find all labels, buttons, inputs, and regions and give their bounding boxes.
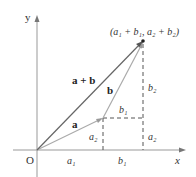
vector-addition-diagram: y x O (a₁ + b₁, a₂ + b₂) a + b b a b₁ b₂… [0,0,196,177]
endpoint-coordinate-label: (a₁ + b₁, a₂ + b₂) [110,26,180,38]
endpoint-dot [141,39,145,43]
y-axis-arrow-icon [35,15,40,22]
x-axis-label: x [174,154,180,166]
dashed-guides [103,44,143,150]
vector-b-label: b [107,84,113,96]
a1-x-label: a₁ [67,155,75,166]
vector-a-arrow-icon [96,118,103,123]
vector-sum-label: a + b [72,74,95,86]
a2-right-label: a₂ [148,131,157,142]
vector-a-label: a [72,118,78,130]
axes [13,15,186,177]
y-axis-label: y [25,11,31,23]
a2-left-label: a₂ [89,131,98,142]
b1-x-label: b₁ [118,155,126,166]
b1-mid-label: b₁ [119,104,127,115]
b2-right-label: b₂ [148,82,157,93]
origin-label: O [26,154,34,166]
x-axis-arrow-icon [179,148,186,153]
